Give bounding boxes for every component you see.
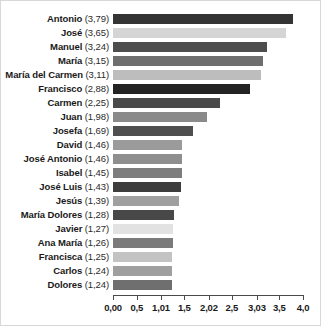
bar-row: Carmen (2,25)	[1, 96, 320, 110]
bar-category-name: Manuel	[50, 41, 82, 52]
bar	[113, 140, 182, 150]
bar-category-name: Antonio	[47, 13, 82, 24]
bar-category-name: José Antonio	[24, 153, 83, 164]
x-axis-tick-label: 0,5	[130, 302, 143, 313]
bar-value-label: (1,69)	[82, 125, 109, 136]
bar-row-label: Dolores (1,24)	[48, 278, 109, 292]
bar	[113, 112, 207, 122]
bar	[113, 266, 172, 276]
bar-row: Carlos (1,24)	[1, 264, 320, 278]
bar-category-name: José	[61, 27, 82, 38]
bar	[113, 14, 293, 24]
bar-value-label: (2,25)	[82, 97, 109, 108]
plot-area: Antonio (3,79)José (3,65)Manuel (3,24)Ma…	[1, 1, 320, 325]
bar-row-label: José (3,65)	[61, 26, 109, 40]
bar-row-label: Manuel (3,24)	[50, 40, 109, 54]
bar-value-label: (1,24)	[82, 265, 109, 276]
bar-row: José (3,65)	[1, 26, 320, 40]
bar-row: Javier (1,27)	[1, 222, 320, 236]
bar-row: Isabel (1,45)	[1, 166, 320, 180]
bar-row: María (3,15)	[1, 54, 320, 68]
x-axis-tick-label: 1,01	[152, 302, 170, 313]
x-axis-tick	[161, 295, 162, 300]
bar-value-label: (1,25)	[82, 251, 109, 262]
bar-value-label: (1,46)	[82, 139, 109, 150]
bar-row-label: Ana María (1,26)	[38, 236, 109, 250]
bar-row: Manuel (3,24)	[1, 40, 320, 54]
bar-row: José Luis (1,43)	[1, 180, 320, 194]
bar-value-label: (3,79)	[82, 13, 109, 24]
bar-value-label: (1,26)	[82, 237, 109, 248]
bar-category-name: María del Carmen	[5, 69, 83, 80]
bar	[113, 126, 193, 136]
bar-row-label: María (3,15)	[58, 54, 109, 68]
bar	[113, 238, 173, 248]
x-axis-tick	[279, 295, 280, 300]
x-axis-tick	[257, 295, 258, 300]
x-axis-tick-label: 0,00	[104, 302, 122, 313]
bar-row: Dolores (1,24)	[1, 278, 320, 292]
bar-row-label: José Antonio (1,46)	[24, 152, 109, 166]
bar	[113, 210, 174, 220]
bar	[113, 28, 286, 38]
bar	[113, 154, 182, 164]
x-axis-tick-label: 2,5	[225, 302, 238, 313]
bar-row-label: María Dolores (1,28)	[21, 208, 109, 222]
bar	[113, 168, 182, 178]
bar-row-label: Juan (1,98)	[60, 110, 109, 124]
bar-category-name: Dolores	[48, 279, 83, 290]
bar-category-name: María Dolores	[21, 209, 83, 220]
bar-row: Francisca (1,25)	[1, 250, 320, 264]
bar-value-label: (3,24)	[82, 41, 109, 52]
bar-row: David (1,46)	[1, 138, 320, 152]
bar-category-name: Josefa	[53, 125, 83, 136]
bar-row: Juan (1,98)	[1, 110, 320, 124]
x-axis-tick-label: 1,5	[178, 302, 191, 313]
bar	[113, 182, 181, 192]
bar-row-label: Jesús (1,39)	[56, 194, 109, 208]
bar-value-label: (1,45)	[82, 167, 109, 178]
x-axis-tick	[209, 295, 210, 300]
bar-value-label: (1,46)	[82, 153, 109, 164]
bar-row: María Dolores (1,28)	[1, 208, 320, 222]
bar-row-label: Antonio (3,79)	[47, 12, 109, 26]
bar-row-label: Josefa (1,69)	[53, 124, 109, 138]
bar-value-label: (2,88)	[82, 83, 109, 94]
bar-row: Francisco (2,88)	[1, 82, 320, 96]
bar-category-name: Francisco	[38, 83, 82, 94]
bar-row: Antonio (3,79)	[1, 12, 320, 26]
bar-category-name: Carlos	[53, 265, 82, 276]
x-axis-tick-label: 2,02	[200, 302, 218, 313]
bar	[113, 84, 250, 94]
bar-value-label: (1,98)	[82, 111, 109, 122]
bar-value-label: (3,11)	[83, 69, 109, 80]
bar-row-label: Francisca (1,25)	[39, 250, 109, 264]
x-axis-tick-label: 3,5	[273, 302, 286, 313]
bar-category-name: Javier	[55, 223, 82, 234]
bar-category-name: Carmen	[47, 97, 82, 108]
bar-category-name: Jesús	[56, 195, 82, 206]
x-axis-tick	[303, 295, 304, 300]
bar-row-label: Isabel (1,45)	[56, 166, 109, 180]
bar-row-label: María del Carmen (3,11)	[5, 68, 109, 82]
bar-row-label: Carlos (1,24)	[53, 264, 109, 278]
bar-category-name: Ana María	[38, 237, 83, 248]
x-axis-tick-label: 4,0	[297, 302, 310, 313]
x-axis-tick	[184, 295, 185, 300]
bar	[113, 224, 173, 234]
bar-category-name: Juan	[60, 111, 82, 122]
bar-value-label: (1,24)	[82, 279, 109, 290]
x-axis-tick	[137, 295, 138, 300]
bar-value-label: (1,43)	[82, 181, 109, 192]
bar-category-name: Francisca	[39, 251, 82, 262]
bar-row-label: Carmen (2,25)	[47, 96, 109, 110]
bar-row-label: Francisco (2,88)	[38, 82, 109, 96]
bar-row-label: José Luis (1,43)	[39, 180, 109, 194]
bar	[113, 70, 261, 80]
bar-category-name: José Luis	[39, 181, 82, 192]
bar-row-label: David (1,46)	[57, 138, 109, 152]
bar-category-name: María	[58, 55, 82, 66]
bar	[113, 56, 263, 66]
bar-value-label: (1,28)	[82, 209, 109, 220]
bar-category-name: David	[57, 139, 82, 150]
